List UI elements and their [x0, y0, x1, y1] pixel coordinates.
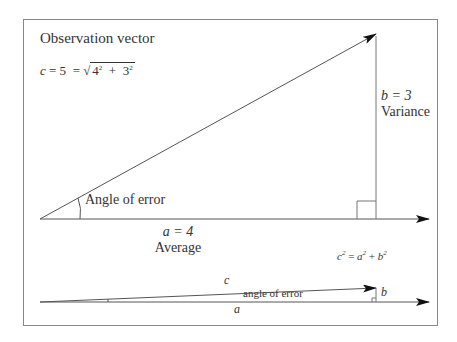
- small-a-label: a: [234, 302, 240, 317]
- small-triangle: [40, 288, 429, 302]
- angle-label: Angle of error: [85, 192, 165, 208]
- triangle-drawing: [0, 0, 457, 342]
- side-a-label: a = 4 Average: [146, 224, 210, 256]
- small-hypotenuse-line: [40, 288, 376, 302]
- pythagoras-formula: c2 = a2 + b2: [337, 250, 387, 262]
- small-right-angle-marker: [372, 298, 376, 302]
- small-b-label: b: [381, 285, 387, 300]
- small-angle-label: angle of error: [243, 287, 303, 299]
- side-b-label: b = 3 Variance: [381, 88, 430, 120]
- title-label: Observation vector: [40, 30, 155, 47]
- small-c-label: c: [224, 273, 229, 288]
- formula-top: c = 5 = √42 + 32: [40, 62, 135, 79]
- angle-arc: [78, 198, 81, 219]
- right-angle-marker: [357, 201, 376, 219]
